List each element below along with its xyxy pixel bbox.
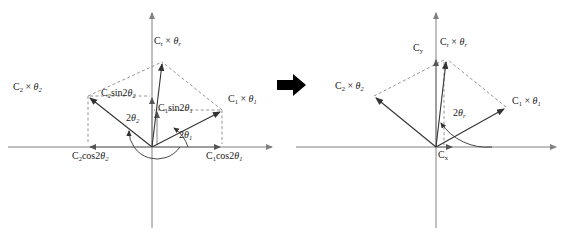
right-angle-arc bbox=[441, 123, 492, 147]
transition-arrow-shape bbox=[277, 74, 306, 96]
left-label-vector2: C2 × θ2 bbox=[13, 82, 42, 92]
left-vectors bbox=[90, 64, 220, 147]
left-label-vector1: C1 × θ1 bbox=[228, 94, 257, 104]
right-label-vector2: C2 × θ2 bbox=[335, 81, 364, 91]
left-label-angle1: 2θ1 bbox=[179, 130, 192, 140]
right-label-angle-r: 2θr bbox=[453, 108, 465, 118]
right-vectors bbox=[376, 62, 504, 147]
left-label-resultant: Cr × θr bbox=[154, 36, 181, 46]
left-label-cos2: C2cos2θ2 bbox=[72, 151, 108, 161]
left-label-sin1: C1sin2θ1 bbox=[158, 103, 193, 113]
diagram-vector-graphics bbox=[0, 0, 568, 239]
right-label-resultant: Cr × θr bbox=[440, 37, 467, 47]
figure-canvas: Cr × θr C2 × θ2 C1 × θ1 C2sin2θ2 C1sin2θ… bbox=[0, 0, 568, 239]
right-axes bbox=[296, 13, 556, 228]
left-dashed-construction bbox=[88, 62, 222, 144]
right-label-cx: Cx bbox=[438, 150, 448, 160]
right-dashed-construction bbox=[374, 60, 506, 145]
right-label-cy: Cy bbox=[413, 43, 423, 53]
left-axes bbox=[8, 13, 272, 228]
left-label-sin2: C2sin2θ2 bbox=[101, 88, 136, 98]
left-label-cos1: C1cos2θ1 bbox=[206, 151, 242, 161]
left-label-angle2: 2θ2 bbox=[126, 113, 139, 123]
right-label-vector1: C1 × θ1 bbox=[512, 96, 541, 106]
